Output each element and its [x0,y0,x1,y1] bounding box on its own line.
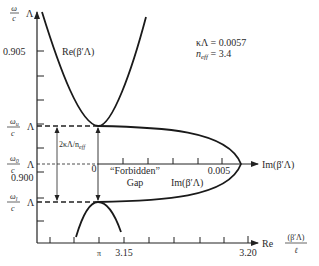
x-axis [37,236,258,243]
y-tick-0905: 0.905 [3,46,26,57]
svg-text:ℓ: ℓ [294,246,298,255]
svg-text:ω0: ω0 [10,154,19,164]
im-axis-label: Im(β′Λ) [262,159,294,171]
x-tick-315: 3.15 [115,247,133,258]
forbidden-gap-label-1: “Forbidden” [110,165,160,176]
svg-text:c: c [11,166,15,175]
gap-width-label: 2κΛ/neff [59,140,86,150]
svg-text:Re: Re [262,238,274,249]
y-axis-label: ω c Λ [10,4,34,23]
neff-param: neff = 3.4 [196,48,231,61]
x-axis-label: Re (β′Λ) ℓ [262,233,307,255]
y-axis [37,12,44,243]
svg-text:Λ: Λ [27,159,35,170]
im-tick-0005: 0.005 [208,165,231,176]
svg-text:Λ: Λ [26,8,34,19]
omega-u-label: ωu c Λ [7,117,35,138]
svg-text:c: c [11,204,15,213]
re-curve-label: Re(β′Λ) [62,46,94,58]
svg-text:ωu: ωu [10,117,19,127]
svg-text:ωl: ωl [10,192,18,202]
svg-text:c: c [11,129,15,138]
kappa-lambda-param: κΛ = 0.0057 [196,37,246,48]
im-origin-label: 0 [92,163,97,174]
dispersion-diagram: ω c Λ 0.905 0.900 ωu c Λ ω0 c Λ ωl c Λ [0,0,319,266]
svg-text:c: c [12,14,16,23]
omega-l-label: ωl c Λ [7,192,35,213]
x-tick-320: 3.20 [239,247,257,258]
forbidden-gap-label-2: Gap [127,177,144,188]
svg-text:(β′Λ): (β′Λ) [288,233,305,242]
im-axis [37,158,258,164]
im-curve-label: Im(β′Λ) [171,177,203,189]
svg-text:Λ: Λ [27,121,35,132]
x-tick-pi: π [97,249,101,258]
svg-text:ω: ω [11,4,17,13]
re-upper-band-curve [42,12,146,126]
svg-text:Λ: Λ [27,197,35,208]
re-lower-band-curve [76,202,121,237]
